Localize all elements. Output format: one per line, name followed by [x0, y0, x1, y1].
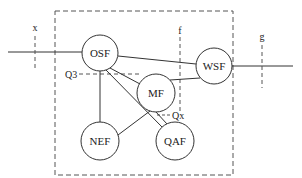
link-osf-mf [110, 68, 140, 84]
node-mf: MF [137, 74, 175, 112]
node-qaf-label: QAF [164, 135, 186, 147]
reference-point-q3-label: Q3 [65, 69, 77, 80]
link-mf-nef [118, 111, 150, 135]
link-osf-wsf [118, 56, 196, 64]
tmn-functional-architecture-diagram: OSF MF WSF NEF QAF x f g Q3 Qx [0, 0, 302, 178]
node-nef: NEF [81, 122, 119, 160]
node-qaf: QAF [156, 122, 194, 160]
node-wsf: WSF [196, 48, 232, 84]
node-wsf-label: WSF [203, 60, 226, 72]
node-nef-label: NEF [90, 135, 111, 147]
reference-point-f-label: f [178, 25, 182, 36]
node-osf: OSF [82, 35, 118, 71]
link-mf-wsf [170, 78, 200, 80]
node-osf-label: OSF [90, 47, 110, 59]
reference-point-g-label: g [260, 31, 265, 42]
node-mf-label: MF [148, 87, 164, 99]
reference-point-qx-label: Qx [172, 110, 184, 121]
reference-point-x-label: x [33, 22, 38, 33]
